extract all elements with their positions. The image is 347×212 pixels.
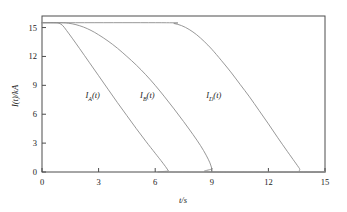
y-tick-label: 15	[20, 23, 37, 32]
y-tick-label: 3	[20, 139, 37, 148]
chart-plot-area	[0, 0, 347, 212]
x-tick-label: 3	[96, 178, 100, 187]
curve-label-b: IB(t)	[140, 91, 155, 102]
y-axis-title: I(t)/kA	[11, 85, 20, 107]
y-tick-label: 6	[20, 110, 37, 119]
x-tick-label: 6	[153, 178, 157, 187]
x-tick-label: 9	[210, 178, 214, 187]
x-tick-label: 0	[40, 178, 44, 187]
curve-label-a: IA(t)	[85, 91, 100, 102]
x-tick-label: 12	[264, 178, 273, 187]
y-tick-label: 12	[20, 52, 37, 61]
y-tick-label: 9	[20, 81, 37, 90]
x-tick-label: 15	[321, 178, 330, 187]
y-tick-label: 0	[20, 168, 37, 177]
x-axis-title: t/s	[179, 196, 187, 205]
curve-label-d: ID(t)	[206, 91, 221, 102]
chart-figure: 03691215 03691215 IA(t)IB(t)ID(t) t/s I(…	[0, 0, 347, 212]
